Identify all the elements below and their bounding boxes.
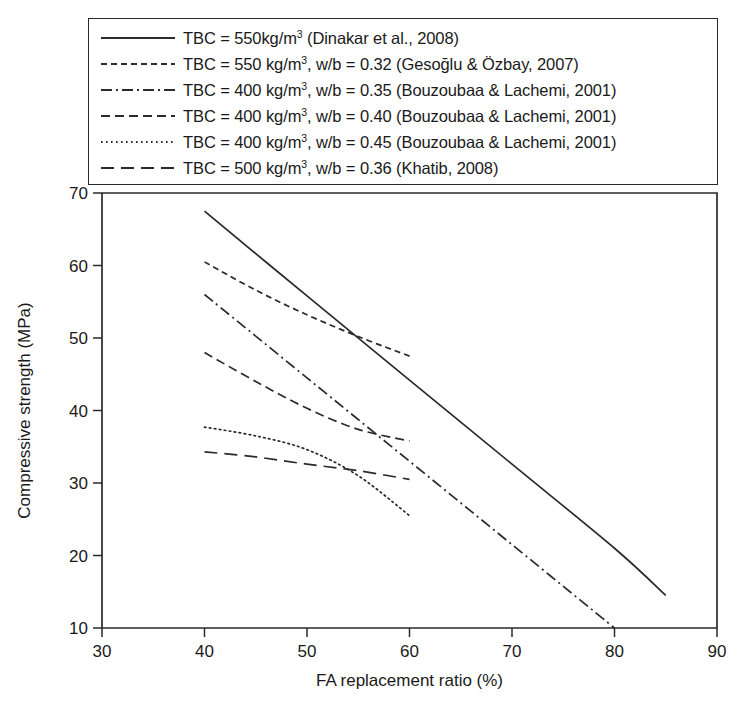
series-line-5 — [205, 452, 410, 480]
axis-labels: 3040506070809010203040506070FA replaceme… — [15, 184, 726, 690]
series-line-3 — [205, 353, 410, 441]
data-series-group — [205, 211, 666, 628]
x-tick-label: 70 — [503, 642, 522, 661]
x-tick-label: 40 — [195, 642, 214, 661]
y-tick-label: 70 — [69, 184, 88, 203]
series-line-0 — [205, 211, 666, 595]
x-axis-title: FA replacement ratio (%) — [316, 671, 503, 690]
series-line-4 — [205, 427, 410, 515]
x-tick-label: 50 — [298, 642, 317, 661]
series-line-2 — [205, 295, 615, 629]
y-tick-label: 30 — [69, 474, 88, 493]
y-tick-label: 50 — [69, 329, 88, 348]
plot-frame — [102, 193, 717, 628]
y-tick-label: 10 — [69, 619, 88, 638]
x-tick-label: 90 — [708, 642, 727, 661]
y-tick-label: 40 — [69, 402, 88, 421]
y-tick-label: 20 — [69, 547, 88, 566]
series-line-1 — [205, 262, 410, 356]
x-tick-label: 30 — [93, 642, 112, 661]
y-tick-label: 60 — [69, 257, 88, 276]
x-tick-label: 80 — [605, 642, 624, 661]
x-tick-label: 60 — [400, 642, 419, 661]
y-axis-title: Compressive strength (MPa) — [15, 302, 34, 518]
chart-figure: TBC = 550kg/m3 (Dinakar et al., 2008) TB… — [0, 0, 749, 702]
plot-area: 3040506070809010203040506070FA replaceme… — [0, 0, 749, 702]
axes — [93, 193, 717, 637]
